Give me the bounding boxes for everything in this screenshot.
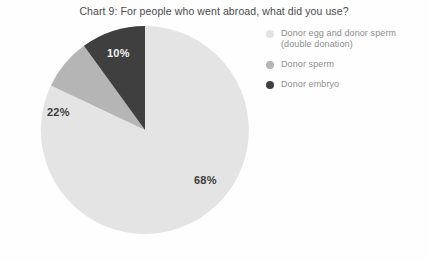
- legend-item-donor-egg-and-donor-sperm: Donor egg and donor sperm (double donati…: [266, 28, 428, 50]
- legend-label-line2: (double donation): [281, 39, 396, 50]
- legend-swatch-circle-icon: [266, 61, 274, 69]
- legend-item-donor-sperm: Donor sperm: [266, 59, 428, 70]
- legend-item-donor-embryo: Donor embryo: [266, 79, 428, 90]
- legend-label-line1: Donor embryo: [281, 79, 339, 89]
- slice-value-label-68: 68%: [194, 174, 217, 186]
- legend-label-line1: Donor sperm: [281, 59, 334, 69]
- legend-swatch-circle-icon: [266, 81, 274, 89]
- legend-swatch-circle-icon: [266, 30, 274, 38]
- pie-svg: [36, 21, 254, 239]
- chart-title: Chart 9: For people who went abroad, wha…: [0, 4, 428, 18]
- chart-legend: Donor egg and donor sperm (double donati…: [266, 28, 428, 99]
- legend-label-line1: Donor egg and donor sperm: [281, 28, 396, 38]
- pie-chart-figure: Chart 9: For people who went abroad, wha…: [0, 0, 428, 260]
- slice-value-label-22: 22%: [47, 106, 70, 118]
- legend-label: Donor embryo: [281, 79, 339, 90]
- legend-label: Donor egg and donor sperm (double donati…: [281, 28, 396, 50]
- legend-label: Donor sperm: [281, 59, 334, 70]
- slice-value-label-10: 10%: [107, 47, 130, 59]
- pie-chart-plot-area: [36, 21, 254, 239]
